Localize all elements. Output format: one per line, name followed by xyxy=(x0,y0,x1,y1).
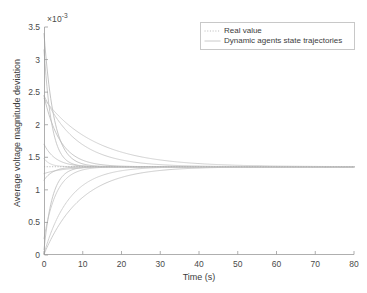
axis-lines-group xyxy=(44,27,354,255)
y-axis-exponent-label: ×10-3 xyxy=(47,14,68,24)
x-axis-tick-label: 80 xyxy=(349,259,358,269)
y-axis-title-wrapper: Average voltage magnitude deviation xyxy=(0,0,14,293)
trajectory-line-agent-13 xyxy=(44,167,354,255)
trajectory-line-agent-11 xyxy=(44,167,354,250)
x-axis-tick-label: 40 xyxy=(194,259,203,269)
plot-area xyxy=(44,27,354,255)
x-axis-tick-labels: 01020304050607080 xyxy=(44,259,354,273)
trajectory-line-agent-3 xyxy=(44,95,354,166)
chart-legend[interactable]: Real valueDynamic agents state trajector… xyxy=(200,22,355,50)
x-axis-title: Time (s) xyxy=(44,272,354,282)
solid-line-swatch-icon xyxy=(204,37,221,45)
trajectory-line-agent-4 xyxy=(44,96,354,167)
trajectory-line-agent-12 xyxy=(44,167,354,254)
y-axis-tick-label: 0 xyxy=(14,250,40,260)
x-axis-tick-label: 0 xyxy=(42,259,47,269)
x-axis-tick-label: 20 xyxy=(117,259,126,269)
legend-label: Real value xyxy=(224,26,262,36)
y-axis-exponent-power: -3 xyxy=(62,12,68,19)
trajectory-line-agent-10 xyxy=(44,167,354,239)
chart-figure: ×10-3 00.511.522.533.5 01020304050607080… xyxy=(0,0,367,293)
x-axis-tick-label: 70 xyxy=(311,259,320,269)
legend-entry-2[interactable]: Dynamic agents state trajectories xyxy=(204,36,350,46)
axis-ticks-group xyxy=(44,27,354,255)
data-series-group xyxy=(44,34,354,255)
x-axis-tick-label: 50 xyxy=(233,259,242,269)
x-axis-tick-label: 30 xyxy=(156,259,165,269)
plot-canvas xyxy=(44,27,354,255)
legend-label: Dynamic agents state trajectories xyxy=(224,36,342,46)
y-axis-title: Average voltage magnitude deviation xyxy=(12,18,22,248)
legend-entry-1[interactable]: Real value xyxy=(204,26,350,36)
y-axis-exponent-mantissa: ×10 xyxy=(47,14,62,24)
x-axis-tick-label: 10 xyxy=(78,259,87,269)
dotted-line-swatch-icon xyxy=(204,27,221,35)
trajectory-line-agent-5 xyxy=(44,99,354,167)
x-axis-tick-label: 60 xyxy=(272,259,281,269)
trajectory-line-agent-1 xyxy=(44,34,354,167)
